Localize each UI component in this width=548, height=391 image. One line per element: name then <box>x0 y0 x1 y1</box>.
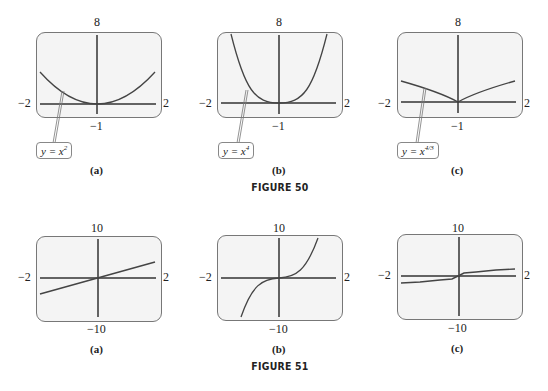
subfigure-label: (c) <box>451 342 463 354</box>
ymin-label: −10 <box>448 321 467 336</box>
xmax-label: 2 <box>524 268 530 283</box>
xmin-label: −2 <box>378 268 391 283</box>
